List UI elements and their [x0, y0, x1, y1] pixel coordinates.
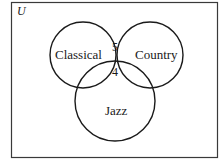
universe-rectangle: [12, 3, 218, 158]
jazz-label: Jazz: [105, 104, 127, 117]
classical-label: Classical: [55, 48, 102, 61]
country-label: Country: [135, 48, 178, 61]
region-classical-country-value: 5: [112, 41, 118, 53]
universe-label: U: [17, 5, 26, 17]
venn-diagram: [0, 0, 221, 162]
region-all-three-value: 4: [112, 66, 118, 78]
